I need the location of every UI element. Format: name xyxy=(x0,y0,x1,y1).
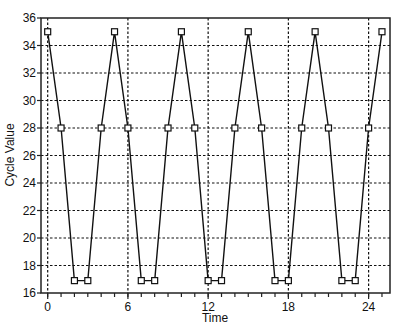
square-marker-icon xyxy=(45,29,51,35)
y-tick-label: 20 xyxy=(23,231,37,245)
x-tick-label: 0 xyxy=(44,300,51,314)
y-tick-label: 28 xyxy=(23,121,37,135)
data-series xyxy=(45,29,385,284)
square-marker-icon xyxy=(85,278,91,284)
x-axis-title: Time xyxy=(202,311,229,325)
square-marker-icon xyxy=(272,278,278,284)
square-marker-icon xyxy=(192,125,198,131)
square-marker-icon xyxy=(138,278,144,284)
square-marker-icon xyxy=(219,278,225,284)
square-marker-icon xyxy=(165,125,171,131)
y-tick-label: 24 xyxy=(23,176,37,190)
square-marker-icon xyxy=(285,278,291,284)
y-axis-title: Cycle Value xyxy=(3,123,17,186)
square-marker-icon xyxy=(125,125,131,131)
y-tick-label: 18 xyxy=(23,259,37,273)
x-tick-label: 18 xyxy=(282,300,296,314)
y-tick-label: 32 xyxy=(23,66,37,80)
square-marker-icon xyxy=(352,278,358,284)
square-marker-icon xyxy=(366,125,372,131)
square-marker-icon xyxy=(58,125,64,131)
y-tick-label: 16 xyxy=(23,286,37,300)
x-tick-label: 6 xyxy=(125,300,132,314)
square-marker-icon xyxy=(339,278,345,284)
square-marker-icon xyxy=(299,125,305,131)
square-marker-icon xyxy=(152,278,158,284)
y-tick-label: 30 xyxy=(23,94,37,108)
square-marker-icon xyxy=(379,29,385,35)
square-marker-icon xyxy=(112,29,118,35)
square-marker-icon xyxy=(259,125,265,131)
square-marker-icon xyxy=(205,278,211,284)
grid-lines xyxy=(41,18,390,293)
square-marker-icon xyxy=(71,278,77,284)
plot-frame xyxy=(41,18,390,293)
square-marker-icon xyxy=(312,29,318,35)
y-tick-label: 26 xyxy=(23,149,37,163)
square-marker-icon xyxy=(178,29,184,35)
series-line xyxy=(48,32,382,281)
y-axis: 1618202224262830323436 xyxy=(23,11,41,300)
square-marker-icon xyxy=(98,125,104,131)
square-marker-icon xyxy=(232,125,238,131)
x-tick-label: 24 xyxy=(362,300,376,314)
y-tick-label: 22 xyxy=(23,204,37,218)
y-tick-label: 36 xyxy=(23,11,37,25)
square-marker-icon xyxy=(325,125,331,131)
line-chart: 1618202224262830323436 06121824 Time Cyc… xyxy=(0,0,398,330)
square-marker-icon xyxy=(245,29,251,35)
y-tick-label: 34 xyxy=(23,39,37,53)
